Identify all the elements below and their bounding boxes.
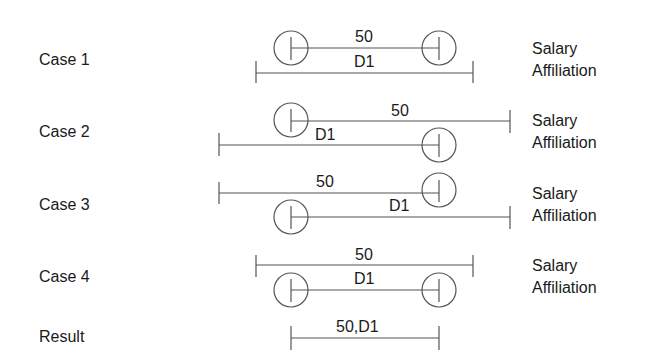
case-1-top-text: 50 — [355, 28, 373, 45]
case-2-bottom-text: D1 — [315, 126, 336, 143]
result-text: 50,D1 — [336, 318, 379, 335]
case-2-top-text: 50 — [391, 102, 409, 119]
case-1-bottom-text: D1 — [354, 53, 375, 70]
case-3-top-text: 50 — [316, 173, 334, 190]
case-4-bottom-text: D1 — [354, 270, 375, 287]
interval-diagram: 50 D1 50 D1 50 D1 50 D1 50,D1 — [0, 0, 645, 364]
case-2-intervals — [219, 103, 510, 162]
case-3-bottom-text: D1 — [389, 197, 410, 214]
case-3-intervals — [219, 173, 510, 234]
case-4-top-text: 50 — [355, 246, 373, 263]
